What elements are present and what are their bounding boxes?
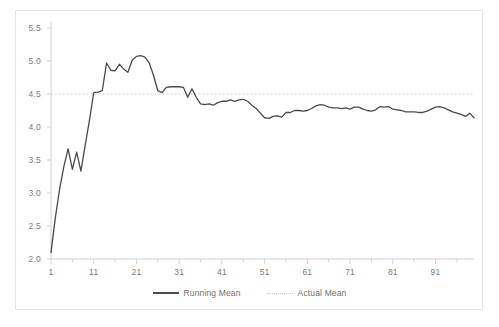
x-axis-tick-label: 61 <box>294 267 320 277</box>
y-axis-tick-label: 4.5 <box>15 89 41 99</box>
y-axis-tick-label: 3.5 <box>15 155 41 165</box>
y-axis-tick-label: 4.0 <box>15 122 41 132</box>
x-axis-tick-label: 51 <box>252 267 278 277</box>
y-axis-tick-label: 3.0 <box>15 188 41 198</box>
line-chart-plot <box>0 0 499 327</box>
y-axis-tick-label: 5.0 <box>15 56 41 66</box>
running-mean-line <box>51 56 474 253</box>
legend-swatch-dotted-line-icon <box>267 293 293 294</box>
legend-entry-running-mean: Running Mean <box>153 288 241 298</box>
legend-label-actual-mean: Actual Mean <box>298 288 347 298</box>
x-axis-tick-label: 1 <box>38 267 64 277</box>
y-axis-tick-label: 5.5 <box>15 23 41 33</box>
x-axis-tick-label: 41 <box>209 267 235 277</box>
x-axis-tick-label: 71 <box>337 267 363 277</box>
chart-legend: Running Mean Actual Mean <box>0 288 499 298</box>
x-axis-tick-label: 81 <box>380 267 406 277</box>
legend-entry-actual-mean: Actual Mean <box>267 288 347 298</box>
x-axis-tick-label: 31 <box>166 267 192 277</box>
legend-label-running-mean: Running Mean <box>184 288 241 298</box>
x-axis-tick-label: 11 <box>81 267 107 277</box>
y-axis-tick-label: 2.5 <box>15 221 41 231</box>
x-axis-tick-label: 21 <box>123 267 149 277</box>
legend-swatch-solid-line-icon <box>153 292 179 294</box>
x-axis-tick-label: 91 <box>423 267 449 277</box>
y-axis-tick-label: 2.0 <box>15 254 41 264</box>
